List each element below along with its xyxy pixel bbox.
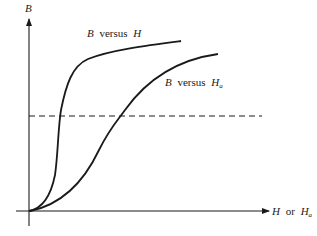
label-b-versus-ha-subscript: a — [219, 82, 223, 90]
label-b-versus-ha-var: B — [165, 76, 172, 88]
label-b-versus-h-of: H — [132, 27, 142, 39]
x-axis-label-or: or — [286, 205, 296, 217]
b-h-diagram: B H or Ha B versus H B versus Ha — [0, 0, 317, 236]
x-axis-label-subscript: a — [309, 211, 313, 219]
x-axis-label-h: H — [271, 205, 281, 217]
label-b-versus-ha: B versus Ha — [165, 76, 223, 90]
label-b-versus-h-var: B — [87, 27, 94, 39]
y-axis-label: B — [25, 2, 32, 14]
label-b-versus-ha-word: versus — [177, 76, 205, 88]
label-b-versus-h-word: versus — [99, 27, 127, 39]
x-axis-label: H or Ha — [271, 205, 313, 219]
curve-b-versus-h — [29, 41, 181, 211]
label-b-versus-h: B versus H — [87, 27, 142, 39]
